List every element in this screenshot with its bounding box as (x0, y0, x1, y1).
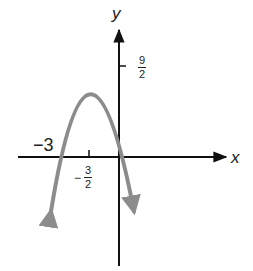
fraction: 3 2 (84, 165, 92, 190)
denominator: 2 (85, 179, 91, 190)
numerator: 9 (139, 55, 145, 66)
x-tick-label-neg3-2: − 3 2 (74, 165, 92, 190)
denominator: 2 (139, 69, 145, 80)
x-tick-label-neg3: −3 (33, 136, 54, 154)
y-tick-label-9-2: 9 2 (138, 55, 146, 80)
numerator: 3 (85, 165, 91, 176)
y-axis-label: y (112, 5, 121, 22)
x-axis-label: x (231, 149, 240, 166)
neg-sign: − (74, 172, 81, 184)
parabola-curve (51, 94, 134, 211)
